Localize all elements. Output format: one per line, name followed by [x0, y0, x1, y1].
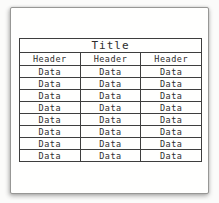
header-row: Header Header Header — [20, 53, 202, 66]
data-cell: Data — [80, 150, 141, 162]
column-header: Header — [141, 53, 202, 66]
data-cell: Data — [80, 66, 141, 78]
data-cell: Data — [141, 78, 202, 90]
data-cell: Data — [20, 90, 81, 102]
table-row: Data Data Data — [20, 150, 202, 162]
data-cell: Data — [20, 138, 81, 150]
data-cell: Data — [20, 102, 81, 114]
table-title: Title — [20, 39, 202, 53]
data-cell: Data — [141, 150, 202, 162]
data-cell: Data — [141, 114, 202, 126]
table-row: Data Data Data — [20, 90, 202, 102]
column-header: Header — [20, 53, 81, 66]
column-header: Header — [80, 53, 141, 66]
data-cell: Data — [80, 114, 141, 126]
table-row: Data Data Data — [20, 138, 202, 150]
table-row: Data Data Data — [20, 114, 202, 126]
data-cell: Data — [141, 126, 202, 138]
paper-card: Title Header Header Header Data Data Dat… — [10, 7, 209, 194]
data-cell: Data — [20, 114, 81, 126]
table-row: Data Data Data — [20, 66, 202, 78]
data-cell: Data — [80, 126, 141, 138]
data-cell: Data — [80, 78, 141, 90]
data-cell: Data — [80, 138, 141, 150]
data-table: Title Header Header Header Data Data Dat… — [19, 38, 202, 162]
table-row: Data Data Data — [20, 78, 202, 90]
data-cell: Data — [80, 102, 141, 114]
data-cell: Data — [141, 102, 202, 114]
data-cell: Data — [141, 66, 202, 78]
data-cell: Data — [20, 150, 81, 162]
data-cell: Data — [20, 78, 81, 90]
data-cell: Data — [141, 138, 202, 150]
table-row: Data Data Data — [20, 102, 202, 114]
data-cell: Data — [80, 90, 141, 102]
title-row: Title — [20, 39, 202, 53]
table-row: Data Data Data — [20, 126, 202, 138]
data-cell: Data — [20, 126, 81, 138]
data-cell: Data — [141, 90, 202, 102]
data-cell: Data — [20, 66, 81, 78]
